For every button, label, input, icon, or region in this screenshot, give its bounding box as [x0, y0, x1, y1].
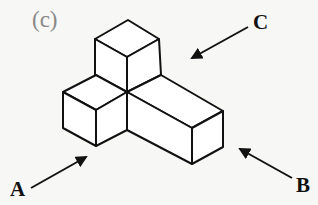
cubes — [63, 20, 223, 164]
arrow-a — [31, 157, 86, 188]
view-label-c: C — [253, 12, 268, 33]
figure-canvas: (c) A B C — [0, 0, 318, 205]
view-label-b: B — [296, 175, 310, 196]
arrow-c — [192, 27, 248, 58]
panel-label: (c) — [32, 8, 58, 31]
view-label-a: A — [10, 179, 25, 200]
arrow-b — [240, 149, 292, 178]
